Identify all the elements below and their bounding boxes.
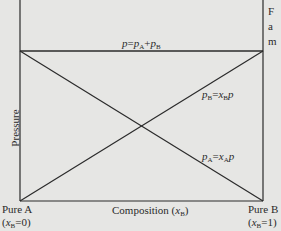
edge-fragment-3: m: [268, 36, 277, 47]
pure-b-label: Pure B: [248, 204, 278, 215]
partial-pressure-b-label: pB=xBp: [202, 89, 233, 102]
edge-fragment-1: F: [268, 6, 274, 17]
edge-fragment-2: a: [268, 21, 273, 32]
y-axis-label: Pressure: [9, 103, 21, 153]
total-pressure-label: p=pA+pB: [122, 38, 161, 51]
partial-pressure-a-label: pA=xAp: [202, 151, 234, 164]
pure-a-label: Pure A: [2, 204, 32, 215]
pure-b-composition: (xB=1): [248, 217, 277, 230]
pressure-composition-diagram: [0, 0, 281, 231]
x-axis-label: Composition (xB): [112, 205, 189, 218]
pure-a-composition: (xB=0): [2, 217, 31, 230]
